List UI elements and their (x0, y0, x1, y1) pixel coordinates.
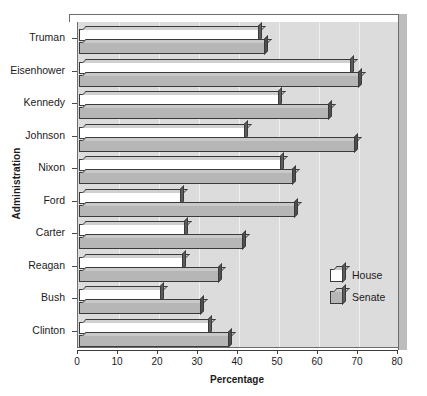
y-axis-label-eisenhower: Eisenhower (10, 64, 65, 76)
y-axis-label-reagan: Reagan (28, 259, 65, 271)
x-axis-tick-label-0: 0 (74, 356, 80, 367)
y-axis-tick (72, 266, 77, 267)
y-axis-label-clinton: Clinton (32, 324, 65, 336)
bar-ford-senate (79, 205, 295, 217)
plot-area (77, 22, 399, 348)
y-axis-tick (72, 201, 77, 202)
x-axis-tick-label-10: 10 (111, 356, 122, 367)
bar-bush-senate (79, 302, 201, 314)
bar-johnson-senate (79, 140, 355, 152)
y-axis-label-johnson: Johnson (25, 129, 65, 141)
x-axis-tick-label-60: 60 (311, 356, 322, 367)
y-axis-label-bush: Bush (41, 291, 65, 303)
legend-label-house: House (352, 269, 382, 281)
x-axis-tick (77, 350, 78, 354)
house-swatch-icon (330, 269, 343, 282)
y-axis-tick (72, 233, 77, 234)
x-axis-tick-label-70: 70 (351, 356, 362, 367)
x-axis-tick-label-40: 40 (231, 356, 242, 367)
plot-box-top-face (69, 14, 399, 22)
legend-label-senate: Senate (352, 291, 385, 303)
bar-reagan-senate (79, 270, 219, 282)
y-axis-tick (72, 331, 77, 332)
y-axis-tick (72, 168, 77, 169)
bar-truman-senate (79, 42, 265, 54)
x-axis-tick-label-80: 80 (391, 356, 402, 367)
y-axis-tick (72, 136, 77, 137)
bar-carter-senate (79, 237, 243, 249)
x-axis-tick (197, 350, 198, 354)
y-axis-tick (72, 103, 77, 104)
y-axis-label-kennedy: Kennedy (24, 96, 65, 108)
x-axis-tick-label-20: 20 (151, 356, 162, 367)
x-axis-tick (157, 350, 158, 354)
x-axis-tick (237, 350, 238, 354)
bar-chart: Administration 01020304050607080 Percent… (0, 0, 427, 396)
y-axis-title: Administration (11, 124, 22, 244)
y-axis-label-nixon: Nixon (38, 161, 65, 173)
bar-nixon-senate (79, 172, 293, 184)
x-axis-tick (357, 350, 358, 354)
y-axis-label-truman: Truman (29, 31, 65, 43)
y-axis-label-ford: Ford (43, 194, 65, 206)
x-axis-tick (317, 350, 318, 354)
senate-swatch-icon (330, 291, 343, 304)
x-axis-tick (117, 350, 118, 354)
bar-clinton-senate (79, 335, 229, 347)
bar-kennedy-senate (79, 107, 329, 119)
x-axis-tick (397, 350, 398, 354)
y-axis-tick (72, 71, 77, 72)
x-axis-tick-label-50: 50 (271, 356, 282, 367)
x-axis-tick (277, 350, 278, 354)
bar-eisenhower-senate (79, 75, 359, 87)
plot-box-right-face (398, 14, 407, 350)
x-axis-tick-label-30: 30 (191, 356, 202, 367)
y-axis-tick (72, 298, 77, 299)
y-axis-tick (72, 38, 77, 39)
y-axis-label-carter: Carter (36, 226, 65, 238)
x-axis-title: Percentage (77, 374, 397, 385)
